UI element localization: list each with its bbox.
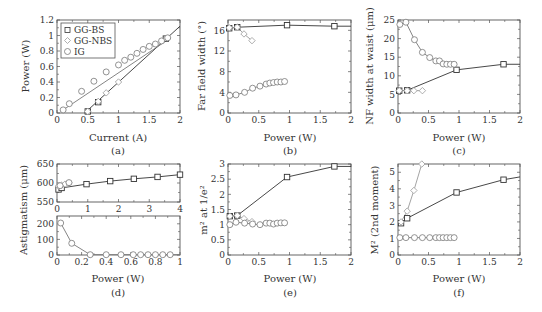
y-tick-label: 0 [48,250,54,260]
y-tick-label: 5 [389,167,395,177]
y-tick-label: 1 [48,31,54,41]
y-tick-label: 0 [389,108,395,118]
circle-marker-icon [103,69,109,75]
square-marker-icon [454,190,459,195]
plot-b-caption: (b) [283,145,297,156]
y-tick-label: 10 [384,71,396,81]
circle-marker-icon [411,235,417,241]
circle-marker-icon [146,43,152,49]
plot-b-xlabel: Power (W) [264,132,317,143]
y-tick-label: 0 [219,108,225,118]
circle-marker-icon [233,219,239,225]
circle-marker-icon [134,50,140,56]
y-tick-label: 5 [389,90,395,100]
x-tick-label: 0.2 [74,257,88,267]
circle-marker-icon [118,252,124,258]
y-tick-label: 16 [214,26,226,36]
x-tick-label: 1 [456,257,462,267]
y-tick-label: 3 [219,159,225,169]
circle-marker-icon [419,235,425,241]
x-tick-label: 1.5 [142,115,157,125]
circle-marker-icon [397,21,403,27]
x-tick-label: 2 [348,257,354,267]
circle-marker-icon [427,235,433,241]
diamond-marker-icon [411,187,417,193]
circle-marker-icon [122,57,128,63]
circle-marker-icon [242,220,248,226]
y-tick-label: 0 [48,108,54,118]
square-marker-icon [155,174,160,179]
y-tick-label: 12 [214,46,225,56]
diamond-marker-icon [419,87,425,93]
x-tick-label: 1.5 [482,257,497,267]
x-tick-label: 0 [395,257,401,267]
plot-e-ylabel: m² at 1/e² [198,185,209,235]
y-tick-label: 0.8 [40,46,55,56]
circle-marker-icon [159,38,165,44]
series-line [401,177,520,223]
circle-marker-icon [427,55,433,61]
plot-b: 00.511.520481216 [214,20,354,125]
circle-marker-icon [91,78,97,84]
plot-f-ylabel: M² (2nd moment) [369,165,380,254]
y-tick-label: 4 [219,88,225,98]
circle-marker-icon [160,252,166,258]
circle-marker-icon [87,252,93,258]
y-tick-label: 2 [389,217,395,227]
x-tick-label: 2 [517,257,523,267]
y-tick-label: 0.4 [40,77,55,87]
x-tick-label: 2 [116,204,122,214]
y-tick-label: 0.6 [40,62,55,72]
square-marker-icon [284,174,289,179]
y-tick-label: 0.5 [211,235,226,245]
circle-marker-icon [282,220,288,226]
y-tick-label: 20 [384,34,396,44]
x-tick-label: 0.4 [99,257,114,267]
y-tick-label: 100 [37,235,54,245]
y-tick-label: 0 [219,250,225,260]
plot-b-ylabel: Far field width (°) [196,21,207,111]
square-marker-icon [284,22,289,27]
plot-c: 00.511.520510152025 [384,15,523,125]
y-tick-label: 0 [389,250,395,260]
x-tick-label: 0.5 [81,115,96,125]
circle-marker-icon [140,46,146,52]
legend: GG-BS GG-NBS IG [61,23,115,58]
circle-marker-icon [282,78,288,84]
circle-marker-icon [403,235,409,241]
legend-label-gg-nbs: GG-NBS [74,36,112,46]
circle-marker-icon [103,252,109,258]
x-tick-label: 1 [177,257,183,267]
circle-marker-icon [250,85,256,91]
square-marker-icon [84,181,89,186]
circle-marker-icon [65,49,71,55]
plot-e: 00.511.5200.511.522.53 [211,159,354,267]
circle-marker-icon [66,180,72,186]
plot-c-ylabel: NF width at waist (μm) [364,7,375,125]
y-tick-label: 4 [389,184,395,194]
x-tick-label: 0.5 [421,115,436,125]
square-marker-icon [404,216,409,221]
x-tick-label: 1 [456,115,462,125]
y-tick-label: 2.5 [211,174,226,184]
circle-marker-icon [227,222,233,228]
x-tick-label: 0 [54,115,60,125]
x-tick-label: 1 [116,115,122,125]
x-tick-label: 0.8 [148,257,163,267]
series-line [61,223,180,255]
x-tick-label: 2 [517,115,523,125]
legend-label-gg-bs: GG-BS [74,25,104,35]
circle-marker-icon [152,41,158,47]
y-tick-label: 1 [219,220,225,230]
x-tick-label: 2 [177,115,183,125]
x-tick-label: 0.5 [252,115,267,125]
series-line [59,175,180,190]
plot-e-xlabel: Power (W) [264,273,317,284]
y-tick-label: 550 [37,197,54,207]
circle-marker-icon [167,252,173,258]
circle-marker-icon [411,37,417,43]
square-marker-icon [501,177,506,182]
circle-marker-icon [130,252,136,258]
axes-frame [57,164,180,202]
x-tick-label: 0 [225,257,231,267]
